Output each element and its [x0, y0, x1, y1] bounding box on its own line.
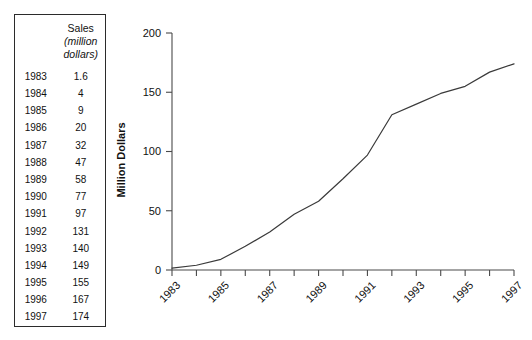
- x-axis-tick-label: 1985: [205, 279, 231, 305]
- table-cell-sales: 58: [57, 172, 106, 189]
- table-cell-year: 1986: [15, 120, 57, 137]
- table-cell-sales: 47: [57, 154, 106, 171]
- table-row: 1993140: [15, 240, 106, 257]
- table-row: 1995155: [15, 275, 106, 292]
- table-row: 19859: [15, 103, 106, 120]
- table-cell-sales: 140: [57, 240, 106, 257]
- table-cell-year: 1989: [15, 172, 57, 189]
- y-axis-tick-label: 100: [143, 145, 161, 157]
- table-row: 1992131: [15, 223, 106, 240]
- table-cell-sales: 4: [57, 86, 106, 103]
- table-cell-year: 1996: [15, 292, 57, 309]
- x-axis-tick-label: 1995: [450, 279, 476, 305]
- table-cell-year: 1987: [15, 137, 57, 154]
- y-axis-title: Million Dollars: [115, 122, 127, 197]
- y-axis-tick-label: 150: [143, 86, 161, 98]
- table-cell-sales: 167: [57, 292, 106, 309]
- table-cell-sales: 20: [57, 120, 106, 137]
- table-cell-year: 1993: [15, 240, 57, 257]
- table-cell-sales: 77: [57, 189, 106, 206]
- table-cell-year: 1992: [15, 223, 57, 240]
- table-cell-year: 1990: [15, 189, 57, 206]
- x-axis-tick-labels: 19831985198719891991199319951997: [157, 279, 525, 305]
- chart-svg: Million Dollars 050100150200 19831985198…: [115, 8, 532, 340]
- table-cell-year: 1991: [15, 206, 57, 223]
- table-header-sales-title: Sales: [57, 22, 106, 35]
- table-header-row: Sales (million dollars): [15, 15, 106, 69]
- table-cell-year: 1997: [15, 309, 57, 326]
- table-row: 198847: [15, 154, 106, 171]
- table-cell-year: 1995: [15, 275, 57, 292]
- table-cell-year: 1985: [15, 103, 57, 120]
- x-axis-tick-label: 1987: [254, 279, 280, 305]
- table-cell-sales: 32: [57, 137, 106, 154]
- table-cell-sales: 97: [57, 206, 106, 223]
- table-row: 1996167: [15, 292, 106, 309]
- table-row: 19844: [15, 86, 106, 103]
- table-row: 1994149: [15, 258, 106, 275]
- table-cell-sales: 155: [57, 275, 106, 292]
- x-axis-tick-label: 1989: [303, 279, 329, 305]
- x-axis-tick-label: 1997: [499, 279, 525, 305]
- y-axis-tick-label: 200: [143, 27, 161, 39]
- table-body: 19831.6198441985919862019873219884719895…: [15, 69, 106, 327]
- y-axis-tick-label: 0: [155, 264, 161, 276]
- table-header-year-blank: [15, 15, 57, 69]
- table-cell-year: 1988: [15, 154, 57, 171]
- table-header-sales-unit-line2: dollars): [57, 48, 106, 61]
- table-cell-sales: 131: [57, 223, 106, 240]
- sales-data-table-container: Sales (million dollars) 19831.6198441985…: [14, 14, 106, 318]
- table-row: 19831.6: [15, 69, 106, 86]
- table-row: 199077: [15, 189, 106, 206]
- table-head: Sales (million dollars): [15, 15, 106, 69]
- table-cell-sales: 149: [57, 258, 106, 275]
- x-axis-tick-label: 1993: [401, 279, 427, 305]
- table-row: 198620: [15, 120, 106, 137]
- x-axis-ticks: [172, 270, 514, 276]
- table-row: 199197: [15, 206, 106, 223]
- x-axis-tick-label: 1983: [157, 279, 183, 305]
- table-cell-year: 1984: [15, 86, 57, 103]
- y-axis-ticks: 050100150200: [143, 27, 172, 276]
- table-row: 198732: [15, 137, 106, 154]
- table-header-sales-unit-line1: (million: [57, 35, 106, 48]
- sales-data-table: Sales (million dollars) 19831.6198441985…: [14, 14, 106, 327]
- table-cell-sales: 174: [57, 309, 106, 326]
- table-cell-sales: 1.6: [57, 69, 106, 86]
- sales-line-chart: Million Dollars 050100150200 19831985198…: [115, 8, 532, 340]
- x-axis-tick-label: 1991: [352, 279, 378, 305]
- table-header-sales: Sales (million dollars): [57, 15, 106, 69]
- sales-series-line: [172, 64, 514, 268]
- table-row: 198958: [15, 172, 106, 189]
- table-cell-year: 1994: [15, 258, 57, 275]
- y-axis-tick-label: 50: [149, 205, 161, 217]
- table-cell-year: 1983: [15, 69, 57, 86]
- table-row: 1997174: [15, 309, 106, 326]
- table-cell-sales: 9: [57, 103, 106, 120]
